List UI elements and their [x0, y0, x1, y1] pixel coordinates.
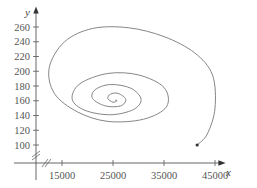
y-tick-label: 200 [14, 66, 30, 77]
x-tick-label: 35000 [151, 170, 177, 181]
y-tick-label: 180 [14, 81, 30, 92]
phase-plot: y 100120140160180200220240260 x 15000250… [0, 0, 257, 188]
x-tick-label: 15000 [49, 170, 75, 181]
y-tick-label: 240 [14, 36, 30, 47]
y-tick-label: 220 [14, 51, 30, 62]
trajectory-curve [49, 27, 216, 145]
x-tick-label: 45000 [202, 170, 228, 181]
y-tick-label: 260 [14, 22, 30, 33]
y-tick-label: 160 [14, 95, 30, 106]
y-tick-label: 100 [14, 140, 30, 151]
y-axis-label: y [24, 6, 30, 18]
y-tick-label: 140 [14, 110, 30, 121]
x-tick-label: 25000 [100, 170, 126, 181]
y-tick-label: 120 [14, 125, 30, 136]
start-point-marker [196, 143, 199, 146]
y-ticks: 100120140160180200220240260 [14, 22, 39, 151]
